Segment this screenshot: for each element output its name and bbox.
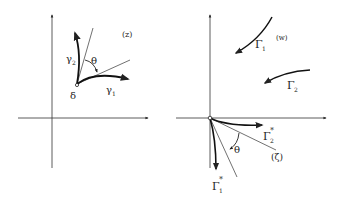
svg-text:*: * bbox=[219, 175, 223, 184]
svg-text:1: 1 bbox=[219, 187, 223, 194]
gamma2-label: γ 2 bbox=[66, 53, 76, 66]
gamma1-curve bbox=[77, 76, 128, 84]
origin-point bbox=[208, 116, 212, 120]
svg-text:1: 1 bbox=[112, 90, 116, 97]
w-zeta-plane-panel: (w) (ζ) θ Γ 1 Γ 2 Γ 2 * Γ 1 * bbox=[176, 15, 326, 194]
z-tangent-line-2 bbox=[77, 60, 130, 84]
Gamma2-star-curve bbox=[210, 118, 262, 125]
Gamma1-star-curve bbox=[210, 118, 216, 169]
angle-theta-label-z: θ bbox=[91, 55, 97, 66]
svg-text:1: 1 bbox=[262, 45, 266, 52]
svg-text:2: 2 bbox=[72, 59, 76, 66]
svg-text:2: 2 bbox=[294, 86, 298, 93]
Gamma2-label: Γ 2 bbox=[287, 79, 298, 93]
point-delta bbox=[75, 83, 78, 86]
zeta-tangent-line-2 bbox=[210, 118, 237, 177]
angle-theta-label-zeta: θ bbox=[234, 144, 240, 155]
Gamma1-label: Γ 1 bbox=[255, 38, 266, 52]
Gamma1-curve bbox=[236, 17, 272, 53]
svg-text:2: 2 bbox=[270, 137, 274, 144]
delta-label: δ bbox=[70, 90, 76, 101]
gamma1-label: γ 1 bbox=[106, 84, 116, 97]
Gamma1-star-label: Γ 1 * bbox=[212, 175, 223, 194]
conformal-mapping-diagram: (z) θ δ γ 2 γ 1 (w) (ζ) θ Γ bbox=[0, 0, 339, 200]
svg-text:*: * bbox=[270, 126, 274, 135]
Gamma2-star-label: Γ 2 * bbox=[263, 126, 274, 144]
z-plane-label: (z) bbox=[122, 30, 132, 39]
zeta-plane-label: (ζ) bbox=[271, 152, 283, 162]
w-plane-label: (w) bbox=[276, 34, 288, 42]
z-plane-panel: (z) θ δ γ 2 γ 1 bbox=[18, 15, 148, 168]
